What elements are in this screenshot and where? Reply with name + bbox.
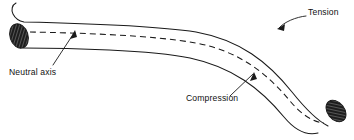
bending-beam-diagram: Tension Compression Neutral axis	[0, 0, 354, 140]
right-cross-section	[322, 96, 350, 125]
compression-label: Compression	[186, 93, 238, 103]
neutral-axis-label: Neutral axis	[9, 67, 56, 77]
left-cross-section	[7, 21, 32, 50]
tension-label: Tension	[308, 7, 339, 17]
tension-arrowhead	[277, 24, 285, 31]
diagram-canvas: Tension Compression Neutral axis	[0, 0, 354, 140]
right-cross-section-ellipse	[322, 96, 350, 125]
compression-annotation: Compression	[186, 72, 257, 103]
neutral-axis-arrowhead	[70, 30, 77, 39]
tension-annotation: Tension	[277, 7, 339, 31]
beam-top-edge	[12, 3, 328, 126]
left-cross-section-ellipse	[7, 21, 32, 50]
beam-bottom-edge	[23, 48, 318, 134]
compression-arrowhead	[250, 72, 257, 81]
